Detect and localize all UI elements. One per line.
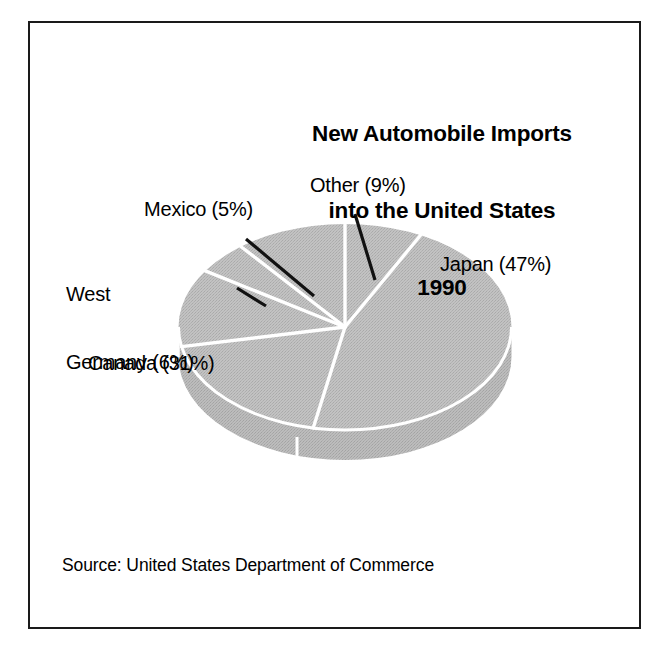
figure-page: New Automobile Imports into the United S… (0, 0, 669, 648)
chart-title: New Automobile Imports into the United S… (252, 70, 632, 352)
chart-title-line-2: into the United States (252, 198, 632, 224)
chart-title-line-3: 1990 (252, 275, 632, 301)
slice-label-japan: Japan (47%) (440, 253, 551, 276)
slice-label-canada: Canada (31%) (88, 352, 215, 375)
slice-label-west-germany-line-1: West (66, 283, 276, 306)
slice-label-west-germany: West Germany (6%) (66, 237, 276, 419)
chart-title-line-1: New Automobile Imports (252, 121, 632, 147)
slice-label-mexico: Mexico (5%) (144, 198, 253, 221)
source-note: Source: United States Department of Comm… (62, 556, 434, 576)
slice-label-other: Other (9%) (310, 174, 406, 197)
